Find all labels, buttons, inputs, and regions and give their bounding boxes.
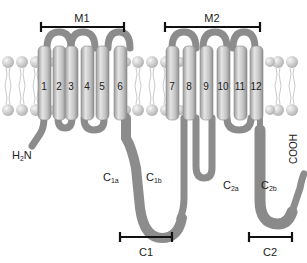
c-terminus-label: COOH xyxy=(288,134,299,164)
helix-label-9: 9 xyxy=(199,82,213,92)
helix-label-3: 3 xyxy=(64,82,78,92)
loop-9-10 xyxy=(203,32,227,48)
loop-3-4 xyxy=(71,32,95,48)
n-terminal-tail xyxy=(32,118,44,146)
helix-label-12: 12 xyxy=(249,82,263,92)
loop-1-2 xyxy=(47,32,71,48)
adenylyl-cyclase-topology-diagram: M1 M2 C1 C2 1 2 3 4 5 6 7 8 9 10 11 12 H… xyxy=(0,0,307,263)
helix-label-6: 6 xyxy=(113,82,127,92)
helix-label-7: 7 xyxy=(165,82,179,92)
diagram-canvas xyxy=(0,0,307,263)
c2-label: C2 xyxy=(258,246,282,258)
c1a-label: C1a xyxy=(103,172,119,186)
loop-5-6 xyxy=(108,32,130,48)
helix-label-5: 5 xyxy=(95,82,109,92)
helix-label-10: 10 xyxy=(216,82,230,92)
helix-label-4: 4 xyxy=(80,82,94,92)
m2-label: M2 xyxy=(200,12,224,24)
c1b-label: C1b xyxy=(146,172,162,186)
c2-bar xyxy=(249,232,292,242)
c2a-label: C2a xyxy=(223,180,239,194)
loop-11-12 xyxy=(233,32,255,48)
loop-7-8 xyxy=(172,32,196,48)
loop-8-9 xyxy=(196,118,212,178)
helix-label-8: 8 xyxy=(182,82,196,92)
m1-label: M1 xyxy=(70,12,94,24)
helix-label-11: 11 xyxy=(233,82,247,92)
helix-label-1: 1 xyxy=(37,82,51,92)
c2b-label: C2b xyxy=(261,180,277,194)
n-terminus-label: H2N xyxy=(12,150,32,164)
c1-label: C1 xyxy=(134,246,158,258)
